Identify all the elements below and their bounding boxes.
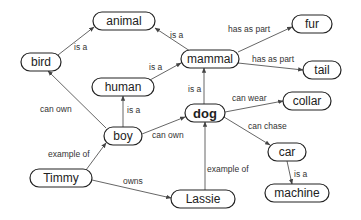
- edge-mammal-animal: is a: [155, 28, 190, 51]
- node-label: Lassie: [186, 192, 221, 206]
- edge-dog-car: can chase: [224, 117, 287, 145]
- edge-label: can chase: [248, 121, 287, 131]
- edge-label: owns: [123, 176, 143, 186]
- edge-mammal-tail: has as part: [238, 54, 303, 70]
- node-boy[interactable]: boy: [104, 127, 142, 145]
- edge-label: is a: [170, 30, 184, 40]
- node-timmy[interactable]: Timmy: [30, 169, 92, 187]
- node-label: fur: [305, 17, 319, 31]
- node-label: boy: [113, 129, 132, 143]
- edge-dog-mammal: is a: [188, 68, 204, 104]
- edge-label: is a: [127, 105, 141, 115]
- edge-car-machine: is a: [287, 161, 308, 184]
- node-label: Timmy: [43, 171, 79, 185]
- edge-label: has as part: [228, 24, 271, 34]
- node-tail[interactable]: tail: [303, 61, 341, 79]
- edge-mammal-fur: has as part: [228, 24, 292, 52]
- node-human[interactable]: human: [92, 78, 154, 96]
- node-label: collar: [293, 94, 322, 108]
- edge-label: can own: [152, 130, 184, 140]
- edge-boy-human: is a: [123, 96, 141, 127]
- node-animal[interactable]: animal: [93, 12, 155, 30]
- node-bird[interactable]: bird: [21, 53, 61, 71]
- edge-timmy-lassie: owns: [92, 176, 171, 198]
- node-mammal[interactable]: mammal: [181, 50, 239, 68]
- node-label: animal: [106, 14, 141, 28]
- edge-human-mammal: is a: [149, 62, 181, 80]
- node-car[interactable]: car: [268, 143, 306, 161]
- node-label: tail: [314, 63, 329, 77]
- edge-label: is a: [188, 84, 202, 94]
- node-machine[interactable]: machine: [265, 184, 329, 202]
- node-fur[interactable]: fur: [292, 15, 332, 33]
- concept-map: is ais ais ahas as parthas as partis ais…: [0, 0, 361, 220]
- edge-label: can wear: [232, 93, 267, 103]
- edge-label: has as part: [252, 54, 295, 64]
- node-collar[interactable]: collar: [283, 92, 331, 110]
- edge-timmy-boy: example of: [48, 143, 106, 170]
- edge-label: is a: [149, 62, 163, 72]
- arrow-icon: [238, 63, 303, 70]
- edge-label: is a: [74, 42, 88, 52]
- edge-lassie-dog: example of: [205, 122, 249, 190]
- edge-label: example of: [207, 164, 249, 174]
- node-label: mammal: [187, 52, 233, 66]
- node-dog[interactable]: dog: [185, 104, 225, 122]
- node-label: car: [279, 145, 296, 159]
- edge-label: example of: [48, 149, 90, 159]
- node-label: machine: [274, 186, 320, 200]
- edge-bird-animal: is a: [58, 27, 94, 55]
- node-label: bird: [31, 55, 51, 69]
- node-lassie[interactable]: Lassie: [171, 190, 235, 208]
- edge-label: is a: [294, 169, 308, 179]
- node-label: dog: [193, 106, 217, 121]
- edge-boy-dog: can own: [142, 117, 185, 140]
- node-label: human: [105, 80, 142, 94]
- edge-dog-collar: can wear: [225, 93, 283, 112]
- edge-label: can own: [40, 104, 72, 114]
- arrow-icon: [287, 161, 292, 184]
